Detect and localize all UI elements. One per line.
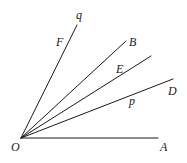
ray-ob (21, 41, 126, 138)
ray-od (21, 79, 173, 138)
point-label-a: A (159, 140, 168, 154)
point-label-q: q (76, 8, 82, 22)
point-label-p: p (128, 94, 135, 108)
rays-group (21, 25, 173, 138)
point-label-d: D (167, 84, 177, 98)
labels-group: ADpEBFq (55, 8, 177, 154)
angle-diagram: ADpEBFq O (0, 0, 187, 163)
vertex-label-o: O (11, 140, 20, 154)
point-label-f: F (55, 35, 64, 49)
point-label-b: B (129, 35, 137, 49)
ray-oq (21, 25, 77, 138)
point-label-e: E (115, 62, 124, 76)
